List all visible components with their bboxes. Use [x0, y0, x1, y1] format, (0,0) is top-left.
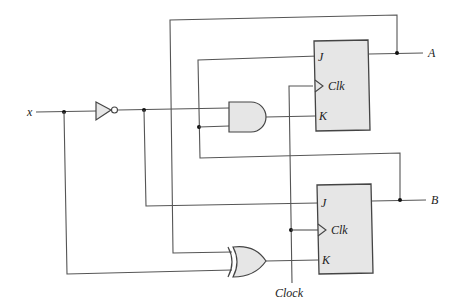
wire-x-to-not — [36, 111, 96, 112]
input-x-label: x — [26, 105, 33, 119]
junction-b-out — [398, 198, 402, 202]
output-b-label: B — [431, 193, 439, 207]
pin-clk-b: Clk — [331, 223, 348, 237]
junction-a — [395, 51, 399, 55]
circuit-diagram: x Clock J Clk K A — [0, 0, 464, 308]
wire-xnot-to-and — [118, 108, 229, 110]
pin-j-a: J — [318, 50, 324, 64]
clock-label: Clock — [275, 286, 304, 300]
pin-j-b: J — [321, 196, 327, 210]
flip-flop-a: J Clk K — [314, 40, 370, 131]
output-a-label: A — [427, 46, 436, 60]
wire-b-to-and — [199, 126, 229, 127]
xor-gate-body — [233, 247, 266, 277]
and-gate — [229, 102, 266, 132]
not-gate — [96, 102, 118, 120]
wire-and-to-ka — [266, 116, 315, 117]
xor-gate — [228, 247, 266, 277]
pin-k-b: K — [321, 253, 331, 267]
wire-x-to-xor — [64, 112, 232, 274]
not-gate-bubble — [112, 107, 118, 113]
not-gate-body — [96, 102, 111, 120]
wire-clock — [289, 86, 313, 283]
flip-flop-b: J Clk K — [317, 184, 373, 274]
pin-clk-a: Clk — [328, 79, 345, 93]
pin-k-a: K — [318, 109, 328, 123]
